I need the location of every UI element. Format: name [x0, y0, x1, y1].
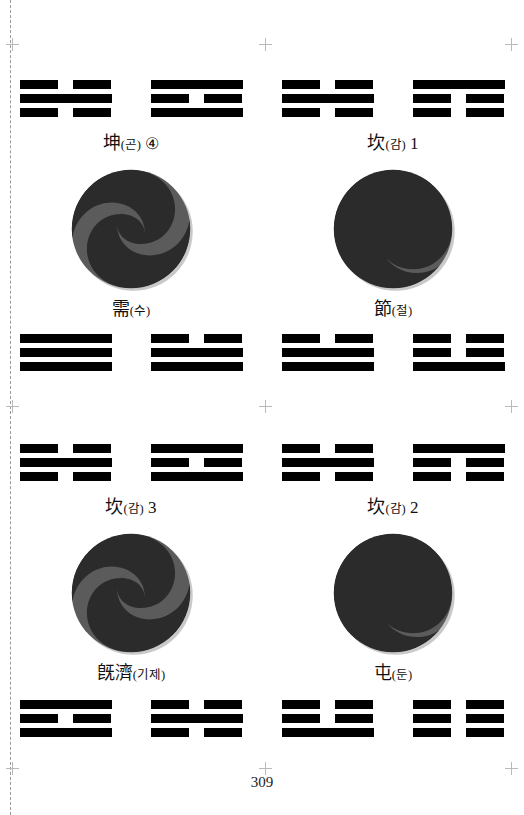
trigram-kun-3 [20, 444, 112, 481]
yin-line [413, 94, 505, 103]
yang-line [151, 80, 243, 89]
yin-line [151, 94, 243, 103]
trigram-cell [262, 80, 393, 117]
crop-mark-mid-right [505, 400, 518, 413]
trigram-row-top [0, 80, 524, 117]
caption-kor: (절) [392, 304, 412, 318]
trigram-row-bottom [0, 700, 524, 737]
yin-line [413, 472, 505, 481]
trigram-dui [151, 334, 243, 371]
taijitu-spiral-icon [68, 166, 194, 292]
trigram-kan-3 [413, 334, 505, 371]
yang-line [282, 94, 374, 103]
yin-line [282, 444, 374, 453]
yin-line [282, 334, 374, 343]
trigram-cell [0, 80, 131, 117]
binding-dashed-line [10, 0, 11, 815]
trigram-row-second [0, 334, 524, 371]
caption-zhun: 屯(둔) [262, 664, 524, 682]
caption-han: 坎 [367, 133, 385, 153]
yin-line [20, 108, 112, 117]
taijitu-lower-left [0, 530, 262, 656]
trigram-zhen [151, 700, 243, 737]
book-page: 坤(곤) ④ 坎(감) 1 需( [0, 0, 524, 815]
caption-han: 坤 [103, 133, 121, 153]
yang-line [151, 348, 243, 357]
trigram-cell [0, 444, 131, 481]
yin-line [151, 458, 243, 467]
trigram-cell [131, 444, 262, 481]
trigram-cell [0, 700, 131, 737]
caption-han: 坎 [105, 497, 123, 517]
yin-line [413, 108, 505, 117]
crop-mark-top-right [505, 38, 518, 51]
caption-kor: (감) [385, 502, 405, 516]
trigram-qian [20, 334, 112, 371]
yang-line [282, 348, 374, 357]
page-number: 309 [0, 774, 524, 791]
yin-line [282, 714, 374, 723]
trigram-cell [393, 700, 524, 737]
taijitu-spiral-icon [330, 166, 456, 292]
yang-line [20, 458, 112, 467]
crop-mark-top-center [259, 38, 272, 51]
yin-line [282, 472, 374, 481]
caption-han: 屯 [374, 663, 392, 683]
yin-line [413, 714, 505, 723]
yang-line [282, 458, 374, 467]
yang-line [282, 728, 374, 737]
trigram-kun-2 [282, 80, 374, 117]
yang-line [413, 444, 505, 453]
yang-line [20, 94, 112, 103]
caption-han: 坎 [367, 497, 385, 517]
trigram-row-third [0, 444, 524, 481]
yang-line [151, 362, 243, 371]
caption-jie: 節(절) [262, 300, 524, 318]
trigram-kun [20, 80, 112, 117]
trigram-cell [262, 444, 393, 481]
yang-line [20, 728, 112, 737]
trigram-kun-4 [282, 444, 374, 481]
caption-xu: 需(수) [0, 300, 262, 318]
trigram-kan-2 [413, 80, 505, 117]
caption-num: 2 [410, 498, 419, 517]
trigram-gen [282, 700, 374, 737]
yin-line [151, 334, 243, 343]
yang-line [151, 714, 243, 723]
trigram-kan-4 [151, 444, 243, 481]
trigram-cell [131, 700, 262, 737]
yin-line [413, 728, 505, 737]
trigram-cell [262, 334, 393, 371]
taijitu-upper-right [262, 166, 524, 292]
caption-num: 1 [410, 134, 419, 153]
caption-kor: (기제) [133, 668, 165, 682]
trigram-kan-6 [20, 700, 112, 737]
trigram-dui-2 [282, 334, 374, 371]
yang-line [20, 334, 112, 343]
caption-kor: (감) [123, 502, 143, 516]
yang-line [20, 348, 112, 357]
yang-line [20, 362, 112, 371]
yang-line [413, 362, 505, 371]
yin-line [20, 472, 112, 481]
yang-line [413, 80, 505, 89]
caption-han: 節 [374, 299, 392, 319]
yin-line [151, 728, 243, 737]
crop-mark-mid-left [6, 400, 19, 413]
caption-han: 旣濟 [97, 663, 133, 683]
trigram-cell [131, 80, 262, 117]
yin-line [413, 348, 505, 357]
taijitu-upper-left [0, 166, 262, 292]
trigram-cell [393, 444, 524, 481]
caption-kor: (둔) [392, 668, 412, 682]
yang-line [151, 472, 243, 481]
trigram-cell [0, 334, 131, 371]
caption-kan-2: 坎(감) 2 [262, 498, 524, 516]
yin-line [282, 700, 374, 709]
taijitu-spiral-icon [68, 530, 194, 656]
trigram-kan [151, 80, 243, 117]
crop-mark-top-left [6, 38, 19, 51]
trigram-cell [262, 700, 393, 737]
trigram-cell [393, 334, 524, 371]
caption-kor: (감) [385, 138, 405, 152]
